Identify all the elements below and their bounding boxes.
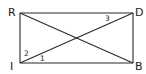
vertex-label-d: D [135,6,143,19]
angle-label-3: 3 [105,14,110,23]
vertex-label-r: R [8,6,16,19]
rectangle-diagram: R D B I 1 2 3 [0,0,146,74]
vertex-label-i: I [10,60,13,73]
angle-label-2: 2 [24,49,29,58]
angle-label-1: 1 [40,54,45,63]
vertex-label-b: B [135,60,143,73]
